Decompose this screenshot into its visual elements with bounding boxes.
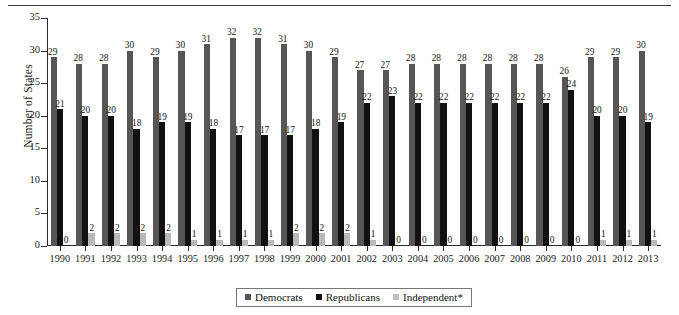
x-tick-mark	[367, 246, 368, 251]
x-tick-label: 1990	[49, 253, 70, 264]
x-axis-labels: 1990199119921993199419951996199719981999…	[47, 246, 661, 272]
bar-value-label: 22	[439, 93, 448, 102]
x-axis-cell: 2000	[303, 246, 329, 272]
bar-independent-1992: 2	[114, 233, 120, 246]
bar-value-label: 32	[253, 28, 262, 37]
bar-value-label: 2	[166, 224, 171, 233]
bar-value-label: 0	[575, 236, 580, 245]
x-axis-cell: 2002	[354, 246, 380, 272]
bar-value-label: 21	[55, 100, 64, 109]
bar-republicans-1995: 19	[185, 122, 191, 246]
bar-republicans-2005: 22	[440, 103, 446, 246]
bar-republicans-2001: 19	[338, 122, 344, 246]
x-tick-mark	[571, 246, 572, 251]
bar-group: 28220	[456, 18, 482, 246]
bar-value-label: 22	[541, 93, 550, 102]
bar-value-label: 20	[592, 106, 601, 115]
bar-group: 30191	[175, 18, 201, 246]
bar-value-label: 1	[601, 230, 606, 239]
bar-value-label: 22	[413, 93, 422, 102]
bar-republicans-1994: 19	[159, 122, 165, 246]
x-tick-mark	[213, 246, 214, 251]
bar-republicans-2012: 20	[619, 116, 625, 246]
bar-value-label: 0	[499, 236, 504, 245]
x-axis-cell: 1994	[149, 246, 175, 272]
x-tick-label: 1997	[229, 253, 250, 264]
bar-value-label: 0	[422, 236, 427, 245]
legend-item-independent[interactable]: Independent*	[393, 291, 463, 303]
x-tick-mark	[85, 246, 86, 251]
bar-group: 28220	[405, 18, 431, 246]
x-tick-label: 2002	[356, 253, 377, 264]
bar-group: 27230	[380, 18, 406, 246]
bar-value-label: 29	[48, 48, 57, 57]
x-tick-label: 2005	[433, 253, 454, 264]
bar-value-label: 19	[644, 113, 653, 122]
bar-value-label: 28	[99, 54, 108, 63]
x-axis-cell: 2010	[559, 246, 585, 272]
x-tick-label: 2008	[510, 253, 531, 264]
x-tick-mark	[520, 246, 521, 251]
x-axis-cell: 2009	[533, 246, 559, 272]
bar-independent-2000: 2	[319, 233, 325, 246]
x-axis-cell: 2001	[328, 246, 354, 272]
x-tick-label: 1999	[280, 253, 301, 264]
x-axis-cell: 2007	[482, 246, 508, 272]
bar-group: 29192	[328, 18, 354, 246]
x-tick-label: 1996	[203, 253, 224, 264]
x-tick-mark	[316, 246, 317, 251]
bar-value-label: 2	[115, 224, 120, 233]
legend-item-republicans[interactable]: Republicans	[316, 291, 380, 303]
plot-area: 05101520253035 2921028202282023018229192…	[47, 18, 661, 246]
bar-republicans-1996: 18	[210, 129, 216, 246]
bar-value-label: 0	[524, 236, 529, 245]
x-axis-cell: 2005	[431, 246, 457, 272]
bar-republicans-2002: 22	[364, 103, 370, 246]
bar-value-label: 17	[260, 126, 269, 135]
x-tick-mark	[597, 246, 598, 251]
bar-value-label: 27	[380, 61, 389, 70]
bar-value-label: 28	[483, 54, 492, 63]
bar-independent-2001: 2	[344, 233, 350, 246]
bar-value-label: 31	[278, 35, 287, 44]
bar-group: 28202	[73, 18, 99, 246]
bar-value-label: 29	[585, 48, 594, 57]
bar-value-label: 1	[243, 230, 248, 239]
bar-value-label: 17	[285, 126, 294, 135]
bar-value-label: 20	[81, 106, 90, 115]
bar-value-label: 28	[508, 54, 517, 63]
bar-republicans-1997: 17	[236, 135, 242, 246]
bar-value-label: 22	[362, 93, 371, 102]
y-tick-label: 25	[15, 76, 40, 87]
bar-value-label: 30	[176, 41, 185, 50]
bar-value-label: 28	[432, 54, 441, 63]
top-divider-rule	[8, 5, 671, 6]
x-tick-mark	[418, 246, 419, 251]
x-tick-mark	[111, 246, 112, 251]
bar-group: 29210	[47, 18, 73, 246]
bar-republicans-2006: 22	[466, 103, 472, 246]
bar-value-label: 2	[345, 224, 350, 233]
legend-swatch-icon	[316, 294, 322, 300]
bar-value-label: 2	[294, 224, 299, 233]
x-tick-label: 2007	[484, 253, 505, 264]
x-tick-label: 1998	[254, 253, 275, 264]
x-tick-mark	[60, 246, 61, 251]
x-axis-cell: 2003	[380, 246, 406, 272]
x-axis-cell: 1993	[124, 246, 150, 272]
bar-value-label: 28	[534, 54, 543, 63]
x-axis-cell: 1992	[98, 246, 124, 272]
bar-value-label: 20	[106, 106, 115, 115]
bar-value-label: 22	[490, 93, 499, 102]
x-tick-label: 1995	[177, 253, 198, 264]
bar-republicans-1992: 20	[108, 116, 114, 246]
y-tick-label: 0	[15, 239, 40, 250]
bar-value-label: 18	[132, 119, 141, 128]
x-tick-mark	[239, 246, 240, 251]
bar-value-label: 27	[355, 61, 364, 70]
x-tick-mark	[264, 246, 265, 251]
x-axis-cell: 2006	[456, 246, 482, 272]
y-tick-label: 35	[15, 11, 40, 22]
y-tick-label: 15	[15, 141, 40, 152]
legend-item-democrats[interactable]: Democrats	[245, 291, 303, 303]
